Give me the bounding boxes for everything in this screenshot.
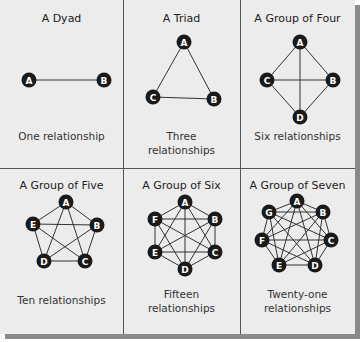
panel-dyad: A Dyad A B One relationship [0, 0, 123, 167]
svg-text:B: B [101, 76, 108, 86]
panel-caption: Twenty-onerelationships [240, 287, 355, 315]
panel-group-of-five: A Group of Five A B C D E Ten relationsh… [0, 169, 123, 336]
node-f-icon: F [255, 233, 270, 248]
svg-text:D: D [181, 265, 188, 275]
svg-text:C: C [328, 236, 335, 246]
svg-text:D: D [296, 113, 303, 123]
panel-caption: One relationship [0, 129, 123, 143]
group-of-five-graph: A B C D E [0, 169, 123, 334]
node-a-icon: A [293, 35, 308, 50]
svg-text:B: B [320, 208, 327, 218]
panel-caption: Fifteenrelationships [123, 287, 240, 315]
panel-group-of-four: A Group of Four A B C D Six relationship… [240, 0, 355, 167]
panel-caption: Six relationships [240, 129, 355, 143]
node-e-icon: E [272, 258, 287, 273]
node-a-icon: A [59, 195, 74, 210]
node-e-icon: E [26, 217, 41, 232]
svg-text:A: A [297, 38, 304, 48]
node-c-icon: C [324, 233, 339, 248]
svg-text:F: F [152, 215, 158, 225]
svg-text:A: A [182, 198, 189, 208]
node-g-icon: G [262, 205, 277, 220]
node-d-icon: D [178, 262, 193, 277]
svg-text:B: B [94, 221, 101, 231]
svg-text:A: A [181, 38, 188, 48]
node-b-icon: B [207, 92, 222, 107]
svg-text:A: A [294, 197, 301, 207]
panel-caption: Threerelationships [123, 129, 240, 157]
node-c-icon: C [146, 90, 161, 105]
svg-text:C: C [212, 248, 219, 258]
node-c-icon: C [260, 73, 275, 88]
svg-text:B: B [212, 215, 219, 225]
node-c-icon: C [208, 245, 223, 260]
svg-text:D: D [311, 261, 318, 271]
node-d-icon: D [293, 110, 308, 125]
node-b-icon: B [326, 73, 341, 88]
svg-text:G: G [265, 208, 272, 218]
panel-caption: Ten relationships [0, 293, 123, 307]
svg-text:E: E [152, 248, 158, 258]
svg-text:C: C [82, 257, 89, 267]
node-f-icon: F [148, 212, 163, 227]
diagram-frame: A Dyad A B One relationship A Triad A B … [0, 0, 355, 334]
node-b-icon: B [97, 73, 112, 88]
svg-text:C: C [264, 76, 271, 86]
node-b-icon: B [316, 205, 331, 220]
svg-text:E: E [276, 261, 282, 271]
node-e-icon: E [148, 245, 163, 260]
svg-text:B: B [211, 95, 218, 105]
node-a-icon: A [178, 195, 193, 210]
svg-text:D: D [40, 257, 47, 267]
node-a-icon: A [22, 73, 37, 88]
svg-text:A: A [26, 76, 33, 86]
svg-text:A: A [63, 198, 70, 208]
node-b-icon: B [90, 218, 105, 233]
node-d-icon: D [308, 258, 323, 273]
svg-text:E: E [30, 220, 36, 230]
svg-text:B: B [330, 76, 337, 86]
panel-triad: A Triad A B C Threerelationships [123, 0, 240, 167]
node-d-icon: D [37, 254, 52, 269]
node-a-icon: A [177, 35, 192, 50]
svg-text:F: F [259, 236, 265, 246]
svg-text:C: C [150, 93, 157, 103]
panel-group-of-seven: A Group of Seven ABCDEFG Twenty-onerelat… [240, 169, 355, 336]
node-c-icon: C [78, 254, 93, 269]
node-b-icon: B [208, 212, 223, 227]
panel-group-of-six: A Group of Six ABCDEF Fifteenrelationshi… [123, 169, 240, 336]
node-a-icon: A [290, 194, 305, 209]
